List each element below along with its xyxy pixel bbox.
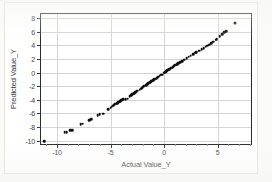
gridline-horizontal: [41, 141, 251, 142]
x-tick-minor: [68, 144, 69, 146]
x-tick-mark: [164, 144, 165, 148]
data-point: [126, 97, 129, 100]
x-tick-minor: [175, 144, 176, 146]
y-tick-label: 6: [31, 28, 35, 35]
data-point: [233, 21, 236, 24]
y-tick-label: -8: [29, 123, 35, 130]
gridline-horizontal: [41, 100, 251, 101]
y-tick-label: -10: [25, 137, 35, 144]
data-point: [65, 131, 68, 134]
gridline-vertical: [57, 14, 58, 144]
data-point: [99, 113, 102, 116]
gridline-vertical: [164, 14, 165, 144]
x-tick-minor: [100, 144, 101, 146]
x-axis-title: Actual Value_Y: [40, 160, 252, 169]
data-point: [81, 122, 84, 125]
x-tick-minor: [46, 144, 47, 146]
x-tick-minor: [196, 144, 197, 146]
x-tick-minor: [132, 144, 133, 146]
x-tick-minor: [186, 144, 187, 146]
y-tick-mark: [37, 18, 41, 19]
x-tick-minor: [228, 144, 229, 146]
y-tick-mark: [37, 45, 41, 46]
plot-area: -10-8-6-4-202468 -10-505: [40, 13, 252, 145]
x-tick-label: 0: [162, 149, 166, 156]
y-tick-label: 8: [31, 15, 35, 22]
gridline-horizontal: [41, 59, 251, 60]
y-tick-mark: [37, 127, 41, 128]
y-axis-title: Predicted Value_Y: [9, 49, 18, 109]
data-point: [225, 30, 228, 33]
y-tick-label: -2: [29, 83, 35, 90]
data-point: [215, 38, 218, 41]
y-tick-mark: [37, 113, 41, 114]
x-tick-label: -10: [52, 149, 62, 156]
gridline-horizontal: [41, 113, 251, 114]
gridline-horizontal: [41, 32, 251, 33]
x-tick-minor: [239, 144, 240, 146]
x-tick-minor: [250, 144, 251, 146]
y-tick-mark: [37, 32, 41, 33]
data-point: [102, 112, 105, 115]
data-point: [90, 118, 93, 121]
x-tick-minor: [153, 144, 154, 146]
gridline-horizontal: [41, 18, 251, 19]
scatter-plot-figure: Predicted Value_Y -10-8-6-4-202468 -10-5…: [0, 0, 272, 182]
x-tick-mark: [111, 144, 112, 148]
data-point: [43, 140, 46, 143]
gridline-vertical: [218, 14, 219, 144]
x-tick-label: 5: [216, 149, 220, 156]
y-tick-label: 2: [31, 55, 35, 62]
x-tick-minor: [78, 144, 79, 146]
y-tick-mark: [37, 86, 41, 87]
x-tick-minor: [121, 144, 122, 146]
y-tick-label: 4: [31, 42, 35, 49]
gridline-vertical: [111, 14, 112, 144]
data-point: [71, 129, 74, 132]
gridline-horizontal: [41, 45, 251, 46]
x-tick-minor: [89, 144, 90, 146]
gridline-horizontal: [41, 73, 251, 74]
x-tick-label: -5: [108, 149, 114, 156]
y-tick-mark: [37, 73, 41, 74]
x-tick-minor: [207, 144, 208, 146]
x-tick-mark: [57, 144, 58, 148]
x-tick-minor: [143, 144, 144, 146]
x-tick-mark: [218, 144, 219, 148]
y-tick-mark: [37, 59, 41, 60]
y-tick-mark: [37, 100, 41, 101]
y-tick-mark: [37, 141, 41, 142]
y-tick-label: 0: [31, 69, 35, 76]
y-tick-label: -6: [29, 110, 35, 117]
data-point: [195, 51, 198, 54]
y-tick-label: -4: [29, 96, 35, 103]
